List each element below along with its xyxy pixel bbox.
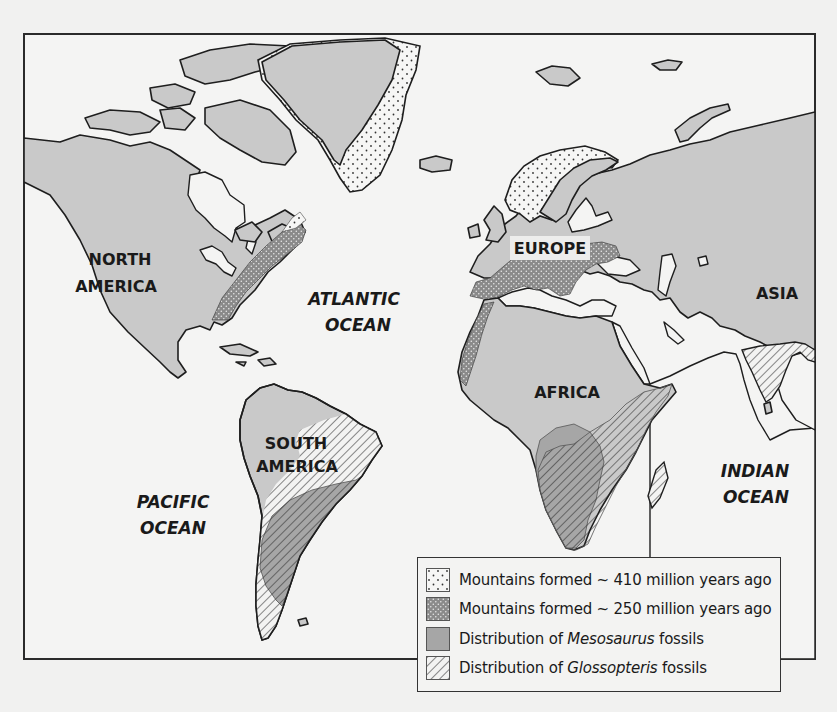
legend-item-mountains-410: Mountains formed ~ 410 million years ago xyxy=(426,565,780,595)
legend-label-prefix: Distribution of xyxy=(459,630,567,648)
map-legend: Mountains formed ~ 410 million years ago… xyxy=(417,557,781,692)
label-pacific-ocean-2: OCEAN xyxy=(140,518,206,538)
legend-label-suffix: fossils xyxy=(654,630,703,648)
sri-lanka xyxy=(764,402,772,414)
legend-item-mesosaurus: Distribution of Mesosaurus fossils xyxy=(426,624,780,654)
label-north-america: NORTH xyxy=(89,250,152,269)
label-asia: ASIA xyxy=(756,284,799,303)
label-atlantic-ocean-2: OCEAN xyxy=(325,315,391,335)
legend-label-species: Mesosaurus xyxy=(567,630,654,648)
solid-gray-swatch-icon xyxy=(426,627,450,651)
legend-label: Mountains formed ~ 250 million years ago xyxy=(459,600,771,618)
legend-item-mountains-250: Mountains formed ~ 250 million years ago xyxy=(426,595,780,625)
label-europe: EUROPE xyxy=(514,239,587,258)
legend-label: Mountains formed ~ 410 million years ago xyxy=(459,571,771,589)
diagonal-hatch-swatch-icon xyxy=(426,656,450,680)
legend-label-species: Glossopteris xyxy=(567,659,657,677)
legend-label-suffix: fossils xyxy=(657,659,706,677)
label-indian-ocean: INDIAN xyxy=(721,461,789,481)
label-africa: AFRICA xyxy=(534,383,600,402)
label-north-america-2: AMERICA xyxy=(75,277,157,296)
iceland xyxy=(420,156,452,172)
label-south-america: SOUTH xyxy=(265,434,327,453)
label-atlantic-ocean: ATLANTIC xyxy=(306,289,400,309)
label-south-america-2: AMERICA xyxy=(256,457,338,476)
sparse-dots-swatch-icon xyxy=(426,568,450,592)
legend-label-prefix: Distribution of xyxy=(459,659,567,677)
dense-dots-swatch-icon xyxy=(426,597,450,621)
legend-item-glossopteris: Distribution of Glossopteris fossils xyxy=(426,654,780,684)
label-pacific-ocean: PACIFIC xyxy=(137,492,210,512)
label-indian-ocean-2: OCEAN xyxy=(723,487,789,507)
